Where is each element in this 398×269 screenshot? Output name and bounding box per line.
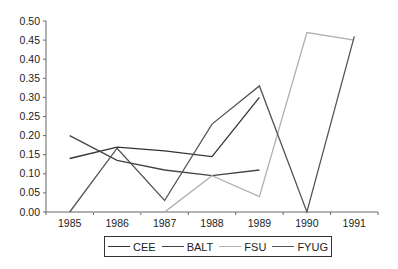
y-tick-label: 0.45 (20, 34, 41, 46)
x-tick-label: 1991 (343, 217, 367, 229)
legend-label: BALT (187, 241, 214, 253)
legend-swatch-fsu (219, 246, 241, 247)
legend-label: FSU (244, 241, 266, 253)
legend-swatch-cee (108, 246, 130, 247)
y-tick-label: 0.30 (20, 91, 41, 103)
series-line-cee (70, 97, 260, 158)
series-line-balt (70, 136, 260, 176)
x-tick-label: 1990 (295, 217, 319, 229)
series-line-fyug (70, 36, 355, 212)
x-tick-label: 1987 (153, 217, 177, 229)
y-tick-label: 0.15 (20, 148, 41, 160)
x-tick-label: 1989 (248, 217, 272, 229)
y-tick-label: 0.50 (20, 15, 41, 27)
chart-legend: CEE BALT FSU FYUG (104, 236, 332, 257)
y-tick-label: 0.20 (20, 129, 41, 141)
legend-item-cee: CEE (108, 241, 156, 253)
legend-label: FYUG (297, 241, 328, 253)
series-line-fsu (70, 33, 355, 213)
legend-item-fyug: FYUG (272, 241, 328, 253)
legend-label: CEE (133, 241, 156, 253)
series-lines (70, 33, 355, 213)
y-tick-label: 0.00 (20, 206, 41, 218)
y-tick-label: 0.35 (20, 72, 41, 84)
legend-swatch-fyug (272, 246, 294, 247)
y-tick-label: 0.40 (20, 53, 41, 65)
y-axis: 0.000.050.100.150.200.250.300.350.400.45… (20, 15, 46, 218)
x-tick-label: 1988 (200, 217, 224, 229)
x-axis: 1985198619871988198919901991 (46, 212, 378, 229)
legend-item-fsu: FSU (219, 241, 266, 253)
y-tick-label: 0.10 (20, 167, 41, 179)
legend-item-balt: BALT (162, 241, 214, 253)
y-tick-label: 0.25 (20, 110, 41, 122)
x-tick-label: 1985 (58, 217, 82, 229)
x-tick-label: 1986 (105, 217, 129, 229)
legend-swatch-balt (162, 246, 184, 247)
line-chart: 0.000.050.100.150.200.250.300.350.400.45… (0, 0, 398, 269)
y-tick-label: 0.05 (20, 186, 41, 198)
